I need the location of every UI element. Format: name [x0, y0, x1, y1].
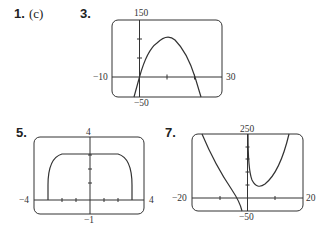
chart-5-frame: [34, 137, 144, 214]
chart-7: [192, 134, 303, 211]
chart-5-xmax-label: 4: [149, 195, 154, 205]
chart-7-right-branch: [248, 134, 289, 186]
chart-5-ymin-label: −1: [84, 215, 94, 225]
chart-5: [34, 137, 144, 214]
chart-7-left-branch: [202, 134, 242, 211]
charts-canvas: 150 −10 30 −50 4 −4 4 −1 250 −20 20 −50: [0, 0, 325, 240]
chart-5-ymax-label: 4: [86, 127, 91, 137]
chart-3: [112, 20, 222, 97]
chart-5-xmin-label: −4: [19, 195, 29, 205]
chart-3-xmax-label: 30: [226, 72, 236, 82]
chart-7-xmin-label: −20: [172, 193, 187, 203]
chart-3-xmin-label: −10: [93, 72, 108, 82]
chart-7-xmax-label: 20: [306, 193, 316, 203]
chart-3-ymax-label: 150: [134, 8, 149, 18]
chart-3-curve: [134, 37, 201, 97]
chart-7-ymax-label: 250: [240, 124, 255, 134]
chart-3-ymin-label: −50: [134, 98, 149, 108]
chart-3-frame: [112, 20, 222, 97]
chart-7-ymin-label: −50: [239, 212, 254, 222]
